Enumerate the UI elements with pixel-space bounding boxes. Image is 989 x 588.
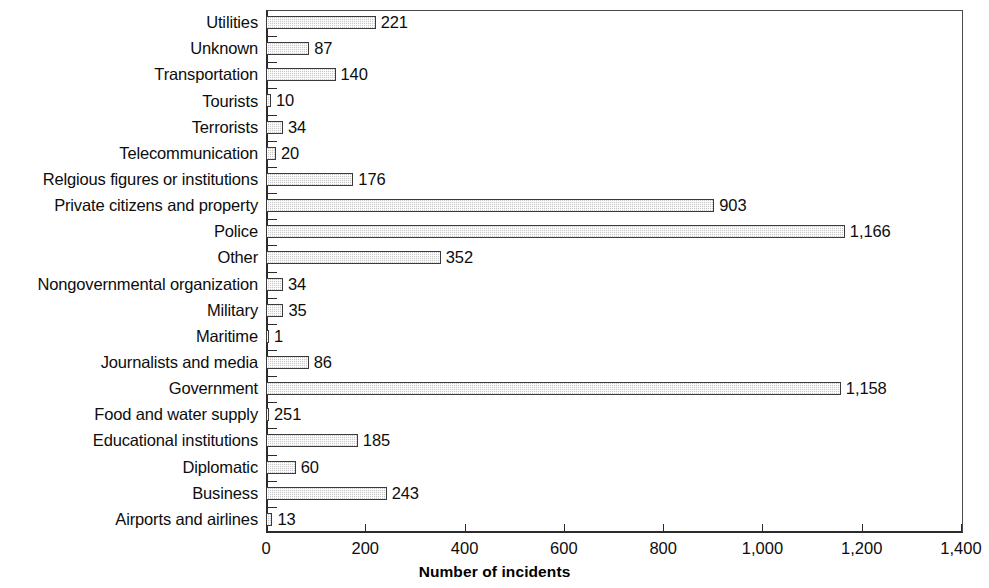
bar-value-label: 34: [288, 275, 306, 293]
bar-value-label: 1,166: [850, 222, 891, 240]
category-label: Transportation: [0, 66, 258, 83]
bar: [266, 278, 283, 291]
category-label: Other: [0, 249, 258, 266]
category-label: Journalists and media: [0, 354, 258, 371]
bar: [266, 461, 296, 474]
category-label: Unknown: [0, 40, 258, 57]
bar-row: 176: [266, 167, 963, 193]
bar-value-label: 221: [381, 13, 408, 31]
bar-value-label: 352: [446, 248, 473, 266]
bar-row: 86: [266, 350, 963, 376]
bar-row: 35: [266, 298, 963, 324]
bar-value-label: 35: [288, 301, 306, 319]
bar-row: 34: [266, 272, 963, 298]
bar-row: 1: [266, 324, 963, 350]
bar-value-label: 243: [392, 484, 419, 502]
x-axis-tick-label: 1,400: [940, 538, 981, 558]
category-label: Telecommunication: [0, 145, 258, 162]
bar: [266, 382, 841, 395]
bar-row: 185: [266, 428, 963, 454]
category-label: Tourists: [0, 93, 258, 110]
x-axis-title: Number of incidents: [0, 563, 989, 581]
bars-layer: 221871401034201769031,16635234351861,158…: [266, 10, 963, 533]
category-label: Utilities: [0, 14, 258, 31]
category-axis-labels: UtilitiesUnknownTransportationTouristsTe…: [0, 10, 258, 533]
category-label: Terrorists: [0, 119, 258, 136]
x-axis-tick-label: 1,000: [742, 538, 783, 558]
x-axis-tick: [961, 524, 962, 533]
bar-value-label: 10: [276, 91, 294, 109]
bar-row: 60: [266, 455, 963, 481]
category-label: Private citizens and property: [0, 197, 258, 214]
bar-row: 34: [266, 115, 963, 141]
x-axis-ticks: [266, 524, 963, 534]
category-label: Military: [0, 302, 258, 319]
bar-row: 243: [266, 481, 963, 507]
bar-value-label: 185: [363, 431, 390, 449]
x-axis-tick: [762, 524, 763, 533]
x-axis-tick: [465, 524, 466, 533]
category-label: Nongovernmental organization: [0, 276, 258, 293]
category-label: Relgious figures or institutions: [0, 171, 258, 188]
bar: [266, 173, 353, 186]
x-axis-tick: [365, 524, 366, 533]
x-axis-tick-labels: 02004006008001,0001,2001,400: [0, 538, 989, 562]
category-label: Maritime: [0, 328, 258, 345]
x-axis-tick: [663, 524, 664, 533]
bar: [266, 16, 376, 29]
x-axis-tick-label: 600: [550, 538, 578, 558]
x-axis-tick: [266, 524, 267, 533]
bar-row: 1,166: [266, 219, 963, 245]
x-axis-tick-label: 1,200: [841, 538, 882, 558]
bar-row: 87: [266, 36, 963, 62]
bar-value-label: 176: [358, 170, 385, 188]
bar-value-label: 86: [314, 353, 332, 371]
bar: [266, 330, 269, 343]
x-axis-tick-label: 400: [451, 538, 479, 558]
x-axis-tick: [862, 524, 863, 533]
bar-row: 20: [266, 141, 963, 167]
bar: [266, 121, 283, 134]
bar: [266, 42, 309, 55]
bar: [266, 408, 269, 421]
bar-row: 903: [266, 193, 963, 219]
bar-value-label: 1: [274, 327, 283, 345]
category-label: Police: [0, 223, 258, 240]
bar: [266, 199, 714, 212]
category-label: Airports and airlines: [0, 511, 258, 528]
category-label: Business: [0, 485, 258, 502]
bar-value-label: 1,158: [846, 379, 887, 397]
bar-value-label: 60: [301, 458, 319, 476]
category-label: Educational institutions: [0, 432, 258, 449]
bar: [266, 147, 276, 160]
category-label: Government: [0, 380, 258, 397]
bar: [266, 487, 387, 500]
bar: [266, 356, 309, 369]
bar-row: 221: [266, 10, 963, 36]
x-axis-tick-label: 0: [261, 538, 270, 558]
category-label: Food and water supply: [0, 406, 258, 423]
x-axis-tick-label: 800: [649, 538, 677, 558]
x-axis-tick-label: 200: [352, 538, 380, 558]
bar-value-label: 251: [274, 405, 301, 423]
bar: [266, 304, 283, 317]
bar-value-label: 20: [281, 144, 299, 162]
bar-row: 1,158: [266, 376, 963, 402]
bar-value-label: 87: [314, 39, 332, 57]
bar-value-label: 34: [288, 118, 306, 136]
category-label: Diplomatic: [0, 459, 258, 476]
bar: [266, 434, 358, 447]
bar-row: 352: [266, 245, 963, 271]
bar-row: 251: [266, 402, 963, 428]
bar: [266, 251, 441, 264]
bar-value-label: 903: [719, 196, 746, 214]
bar: [266, 225, 845, 238]
bar-value-label: 140: [341, 65, 368, 83]
bar-row: 10: [266, 88, 963, 114]
bar: [266, 68, 336, 81]
bar-chart: UtilitiesUnknownTransportationTouristsTe…: [0, 0, 989, 588]
x-axis-tick: [564, 524, 565, 533]
bar-row: 140: [266, 62, 963, 88]
bar: [266, 94, 271, 107]
